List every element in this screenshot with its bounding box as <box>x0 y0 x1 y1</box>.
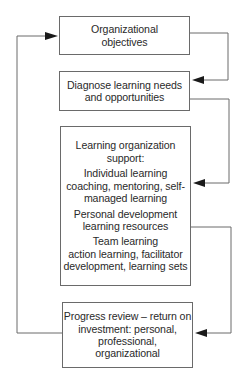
edge-objectives-to-diagnose <box>189 33 228 80</box>
support-team-learning: Team learning action learning, facilitat… <box>63 235 187 272</box>
node-line: professional, <box>98 335 157 347</box>
node-line: organizational <box>95 347 160 359</box>
edge-review-to-objectives <box>17 36 62 333</box>
arrowhead-icon <box>193 179 205 187</box>
arrowhead-icon <box>195 329 207 337</box>
node-organizational-objectives: Organizational objectives <box>59 16 190 55</box>
arrowhead-icon <box>192 76 204 84</box>
node-line: investment: personal, <box>78 323 177 335</box>
edge-support-to-review <box>190 227 231 333</box>
support-individual-learning: Individual learning coaching, mentoring,… <box>66 167 185 204</box>
node-line: Progress review – return on <box>64 310 191 322</box>
node-line: Diagnose learning needs <box>67 79 182 91</box>
node-progress-review: Progress review – return on investment: … <box>62 302 193 368</box>
arrowhead-icon <box>45 32 58 40</box>
node-diagnose-learning-needs: Diagnose learning needs and opportunitie… <box>59 71 190 111</box>
edge-diagnose-to-support <box>190 99 229 183</box>
node-line: Organizational <box>91 23 158 35</box>
node-line: and opportunities <box>85 91 165 103</box>
node-learning-organization-support: Learning organization support: Individua… <box>60 126 191 286</box>
node-line: objectives <box>101 36 147 48</box>
support-heading: Learning organization support: <box>76 139 176 164</box>
support-personal-development: Personal development learning resources <box>74 208 177 233</box>
